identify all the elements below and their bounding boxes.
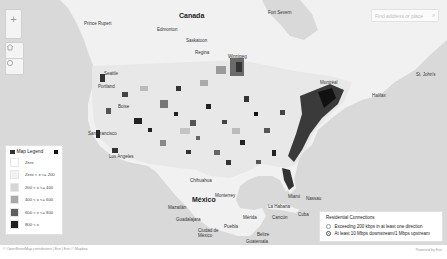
city-label: Mérida: [243, 215, 257, 220]
legend-item: Zero: [10, 156, 58, 169]
country-label-canada: Canada: [179, 12, 204, 19]
city-label: St. John's: [416, 72, 436, 77]
city-label: Saskatoon: [186, 38, 207, 43]
city-label: Guadalajara: [176, 217, 201, 222]
legend-item: 200 < x <= 400: [10, 181, 58, 194]
legend-swatch: [10, 170, 19, 179]
map-basemap: [0, 0, 447, 245]
city-label: Fort Severn: [268, 10, 292, 15]
powered-by[interactable]: Powered by Esri: [416, 248, 442, 252]
legend-item: Zero < x <= 200: [10, 169, 58, 182]
legend-swatch: [10, 195, 19, 204]
option-10mbps[interactable]: At least 10 Mbps downstream/1 Mbps upstr…: [326, 230, 436, 237]
country-label-mexico: México: [192, 196, 216, 203]
legend-swatch: [10, 220, 19, 229]
radio-200kbps[interactable]: [326, 224, 331, 229]
home-button[interactable]: [5, 42, 24, 59]
city-label: Regina: [195, 50, 209, 55]
city-label: La Habana: [268, 204, 290, 209]
city-label: Mazatlán: [168, 205, 186, 210]
home-icon: [6, 43, 14, 51]
city-label: Guatemala: [246, 239, 268, 244]
city-label: Montréal: [320, 80, 338, 85]
map-canvas[interactable]: Canada México Prince Rupert Edmonton Sas…: [0, 0, 447, 245]
legend-label: Zero: [25, 160, 34, 165]
city-label: San Francisco: [88, 131, 117, 136]
legend-header: Map Legend: [10, 149, 58, 154]
city-label: Portland: [98, 84, 115, 89]
legend-swatch: [10, 208, 19, 217]
city-label: Cancún: [272, 215, 288, 220]
city-label: Seattle: [104, 71, 118, 76]
legend-item: 600 < x <= 800: [10, 206, 58, 219]
option-200kbps[interactable]: Exceeding 200 kbps in at least one direc…: [326, 223, 436, 230]
city-label: Edmonton: [157, 27, 178, 32]
legend-swatch: [10, 183, 19, 192]
map-legend: Map Legend Zero Zero < x <= 200 200 < x …: [5, 145, 63, 235]
legend-label: 200 < x <= 400: [25, 185, 53, 190]
legend-toggle-icon[interactable]: [54, 150, 58, 154]
locate-icon: [6, 59, 14, 67]
residential-title: Residential Connections: [326, 215, 436, 220]
city-label: Halifax: [372, 93, 386, 98]
city-label: Boise: [118, 104, 129, 109]
residential-connections-panel: Residential Connections Exceeding 200 kb…: [319, 211, 443, 242]
option-label: At least 10 Mbps downstream/1 Mbps upstr…: [335, 231, 430, 236]
radio-10mbps[interactable]: [326, 231, 331, 236]
search-placeholder: Find address or place: [375, 13, 423, 19]
plus-icon: +: [10, 13, 16, 25]
legend-title: Map Legend: [17, 149, 44, 154]
city-label: Los Angeles: [109, 154, 134, 159]
legend-icon: [10, 150, 15, 154]
locate-button[interactable]: [5, 58, 24, 75]
legend-label: 400 < x <= 600: [25, 197, 53, 202]
city-label: Winnipeg: [228, 54, 247, 59]
city-label: Ciudad de México: [198, 228, 220, 238]
option-label: Exceeding 200 kbps in at least one direc…: [335, 224, 423, 229]
map-attribution: © OpenStreetMap contributors | Esri | Es…: [3, 247, 87, 251]
legend-label: Zero < x <= 200: [25, 172, 55, 177]
city-label: Nassau: [306, 196, 321, 201]
legend-item: 800 < x: [10, 219, 58, 232]
city-label: Puebla: [224, 224, 238, 229]
city-label: Monterrey: [215, 193, 235, 198]
search-icon[interactable]: ⌕: [432, 12, 435, 19]
legend-label: 800 < x: [25, 222, 39, 227]
city-label: Chihuahua: [190, 178, 212, 183]
legend-label: 600 < x <= 800: [25, 210, 53, 215]
zoom-in-button[interactable]: +: [5, 9, 22, 39]
city-label: Belize: [257, 232, 269, 237]
city-label: Cuba: [298, 212, 309, 217]
city-label: Prince Rupert: [84, 21, 112, 26]
legend-item: 400 < x <= 600: [10, 194, 58, 207]
city-label: Miami: [288, 194, 300, 199]
search-input[interactable]: Find address or place ⌕: [371, 9, 439, 22]
legend-swatch: [10, 158, 19, 167]
